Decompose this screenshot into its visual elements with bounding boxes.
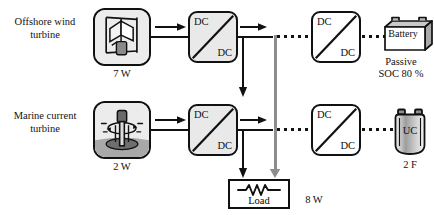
load-block[interactable]: Load bbox=[228, 179, 290, 209]
battery-icon: Battery bbox=[379, 15, 434, 53]
converter-output-label: DC bbox=[217, 47, 232, 58]
flow-arrow-bus-down-load bbox=[236, 139, 250, 179]
flow-arrow-marine-bus bbox=[240, 114, 268, 126]
ultracapacitor-icon: UC bbox=[393, 108, 427, 156]
ultracapacitor-capacitance: 2 F bbox=[385, 159, 434, 171]
marine-current-rating: 2 W bbox=[93, 161, 151, 173]
converter-output-label: DC bbox=[340, 47, 355, 58]
wire-marine-to-converter bbox=[150, 129, 188, 132]
load-label: Load bbox=[248, 195, 270, 206]
offshore-wind-label: Offshore wind turbine bbox=[4, 16, 86, 41]
load-rating: 8 W bbox=[297, 194, 331, 206]
bus-drop-upper bbox=[242, 36, 245, 48]
flow-arrow-wind bbox=[155, 21, 187, 33]
ultracapacitor-label: UC bbox=[393, 125, 427, 136]
power-system-diagram: Offshore wind turbine 7 W bbox=[0, 0, 434, 215]
dotted-link-bus-to-ultracap-converter bbox=[277, 128, 311, 131]
wind-source-converter[interactable]: DC DC bbox=[188, 11, 238, 63]
converter-input-label: DC bbox=[194, 16, 209, 27]
marine-current-turbine-icon bbox=[93, 101, 151, 159]
marine-source-converter[interactable]: DC DC bbox=[188, 104, 238, 156]
converter-output-label: DC bbox=[340, 140, 355, 151]
battery-stage-converter[interactable]: DC DC bbox=[311, 11, 361, 63]
wire-wind-to-converter bbox=[150, 36, 188, 39]
flow-arrow-marine bbox=[155, 114, 187, 126]
offshore-wind-rating: 7 W bbox=[93, 68, 151, 80]
flow-arrow-wind-bus bbox=[240, 21, 268, 33]
converter-input-label: DC bbox=[317, 109, 332, 120]
converter-output-label: DC bbox=[217, 140, 232, 151]
battery-soc: SOC 80 % bbox=[368, 68, 434, 80]
dc-bus-line bbox=[274, 35, 277, 172]
flow-arrow-bus-down-upper bbox=[236, 46, 250, 98]
battery-label: Battery bbox=[382, 28, 424, 39]
offshore-wind-turbine-icon bbox=[93, 8, 151, 66]
battery-mode: Passive bbox=[370, 56, 432, 68]
dotted-link-bus-to-battery-converter bbox=[277, 35, 311, 38]
ultracap-stage-converter[interactable]: DC DC bbox=[311, 104, 361, 156]
dc-bus-arrowhead bbox=[268, 165, 282, 179]
marine-current-label: Marine current turbine bbox=[2, 110, 88, 135]
converter-input-label: DC bbox=[194, 109, 209, 120]
converter-input-label: DC bbox=[317, 16, 332, 27]
